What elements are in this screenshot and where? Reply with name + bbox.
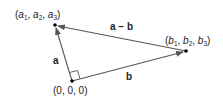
label-vector-a: a — [53, 56, 59, 66]
point-b — [184, 49, 188, 53]
point-a — [53, 23, 57, 27]
label-point-a: (a1, a2, a3) — [15, 10, 60, 22]
label-point-origin: (0, 0, 0) — [53, 86, 87, 96]
point-origin — [70, 79, 74, 83]
label-vector-b: b — [126, 72, 132, 82]
label-vector-a-minus-b: a − b — [110, 22, 133, 32]
label-point-b: (b1, b2, b3) — [165, 36, 210, 48]
